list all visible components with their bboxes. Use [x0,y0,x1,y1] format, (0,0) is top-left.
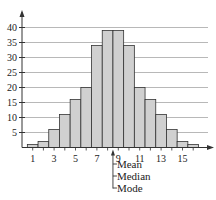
bar-5 [70,100,81,148]
bar-9 [113,31,124,148]
y-tick-label: 10 [7,112,17,123]
bar-4 [59,115,70,148]
annotation-label-mean: Mean [117,158,143,170]
x-axis-arrow-icon [207,145,214,150]
y-tick-label: 5 [12,127,17,138]
bar-3 [49,130,60,148]
bar-13 [156,115,167,148]
x-tick-label: 13 [156,153,166,164]
x-tick-label: 5 [73,153,78,164]
bar-7 [92,46,103,148]
bar-10 [124,46,135,148]
x-tick-label: 1 [30,153,35,164]
annotation-label-mode: Mode [117,182,143,194]
bar-14 [166,130,177,148]
bar-2 [38,142,49,148]
y-tick-label: 15 [7,97,17,108]
y-tick-label: 40 [7,22,17,33]
y-axis-arrow-icon [20,10,25,17]
annotation-label-median: Median [117,170,151,182]
histogram-bars [27,31,198,148]
y-tick-label: 25 [7,67,17,78]
bar-8 [102,31,113,148]
x-tick-label: 7 [94,153,99,164]
x-tick-label: 15 [178,153,188,164]
bar-12 [145,100,156,148]
bar-6 [81,88,92,148]
histogram-chart: 510152025303540 13579111315 MeanMedianMo… [0,0,216,200]
x-tick-label: 3 [52,153,57,164]
bar-11 [134,88,145,148]
y-tick-label: 20 [7,82,17,93]
bar-15 [177,142,188,148]
y-tick-label: 30 [7,52,17,63]
y-tick-label: 35 [7,37,17,48]
